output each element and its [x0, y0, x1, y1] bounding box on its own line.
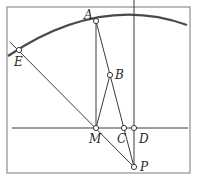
point-m: [93, 125, 98, 130]
geometry-diagram: A B C D E M P: [0, 0, 198, 179]
point-b: [107, 72, 112, 77]
segment-ep: [10, 42, 134, 167]
label-e: E: [13, 55, 23, 69]
point-p: [131, 164, 136, 169]
label-b: B: [114, 68, 124, 82]
point-a: [93, 18, 98, 23]
point-d: [131, 125, 136, 130]
segment-bm: [96, 75, 110, 128]
label-m: M: [88, 132, 102, 146]
point-e: [16, 47, 21, 52]
segment-ap: [96, 21, 134, 167]
label-a: A: [83, 8, 93, 22]
label-d: D: [138, 132, 149, 146]
label-c: C: [117, 132, 126, 146]
point-c: [121, 125, 126, 130]
label-p: P: [139, 160, 149, 174]
